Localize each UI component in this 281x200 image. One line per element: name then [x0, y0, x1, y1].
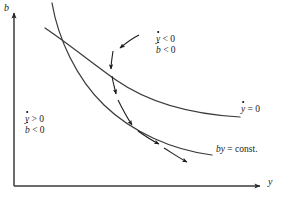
pointer-arrow [120, 35, 139, 48]
time-derivative-dot-icon [26, 111, 28, 113]
lower-region-line-2: b < 0 [25, 125, 45, 136]
ydot-nullcline-label: y = 0 [241, 104, 260, 115]
upper-region-line-2: b < 0 [156, 45, 176, 56]
ydot-relation: < 0 [163, 34, 175, 44]
time-derivative-dot-icon [157, 42, 159, 44]
by-const-label: by = const. [216, 144, 258, 155]
time-derivative-dot-icon [242, 101, 244, 103]
by-symbol: by [216, 144, 225, 154]
upper-right-region-label: y < 0 b < 0 [156, 34, 176, 55]
ydot-symbol: y [241, 104, 245, 115]
bdot-base: b [25, 125, 30, 135]
time-derivative-dot-icon [26, 122, 28, 124]
time-derivative-dot-icon [157, 31, 159, 33]
by-const-curve [52, 3, 212, 155]
diagram-canvas [0, 0, 281, 200]
x-axis-label: y [268, 176, 272, 187]
bdot-base: b [156, 45, 161, 55]
bdot-relation: < 0 [32, 125, 44, 135]
trajectory-arrow-5 [164, 148, 187, 162]
lower-left-region-label: y > 0 b < 0 [25, 114, 45, 135]
ydot-nullcline-curve [45, 28, 240, 117]
y-axis-label: b [4, 2, 9, 13]
upper-region-line-1: y < 0 [156, 34, 176, 45]
ydot-relation: > 0 [32, 114, 44, 124]
trajectory-arrow-4 [138, 131, 159, 144]
lower-region-line-1: y > 0 [25, 114, 45, 125]
trajectory-arrow-1 [111, 51, 113, 69]
bdot-relation: < 0 [163, 45, 175, 55]
phase-diagram-figure: b y y = 0 by = const. y < 0 b < 0 y > 0 … [0, 0, 281, 200]
ydot-nullcline-rhs: = 0 [248, 104, 260, 114]
by-const-rhs: = const. [227, 144, 257, 154]
trajectory-arrow-3 [118, 100, 132, 125]
